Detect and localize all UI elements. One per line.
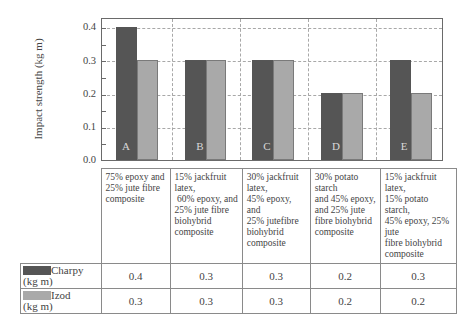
minor-tick xyxy=(102,45,106,46)
bar-a-izod xyxy=(137,60,158,160)
bar-label-b: B xyxy=(190,140,210,152)
desc-line: 45% epoxy, 25% jute xyxy=(385,216,452,238)
major-tick xyxy=(102,28,106,29)
izod-value-e: 0.2 xyxy=(380,289,456,314)
charpy-swatch-icon xyxy=(23,266,51,275)
charpy-unit: (kg m) xyxy=(23,275,53,287)
major-tick xyxy=(102,95,106,96)
izod-value-d: 0.2 xyxy=(310,289,380,314)
izod-swatch-icon xyxy=(23,291,51,300)
desc-e: 15% jackfruit latex, 15% potato starch, … xyxy=(380,169,456,264)
izod-value-c: 0.3 xyxy=(242,289,310,314)
table-description-row: 75% epoxy and 25% jute fibre composite 1… xyxy=(21,169,457,264)
desc-line: 75% epoxy and xyxy=(106,172,166,183)
gridline-0.4 xyxy=(102,28,442,29)
data-table: 75% epoxy and 25% jute fibre composite 1… xyxy=(20,168,457,314)
desc-line: fibre biohybrid xyxy=(385,238,452,249)
izod-label: Izod xyxy=(51,289,71,301)
desc-line: composite xyxy=(175,227,238,238)
desc-line: 25% jute fibre xyxy=(175,205,238,216)
plot-area: A B C D E xyxy=(101,18,443,161)
desc-a: 75% epoxy and 25% jute fibre composite xyxy=(101,169,170,264)
y-tick-3: 0.3 xyxy=(70,55,96,66)
major-tick xyxy=(102,128,106,129)
bar-label-c: C xyxy=(257,140,277,152)
desc-line: biohybrid xyxy=(175,216,238,227)
series-label-izod: Izod (kg m) xyxy=(21,289,102,314)
izod-value-a: 0.3 xyxy=(101,289,170,314)
bar-label-d: D xyxy=(326,140,346,152)
major-tick xyxy=(102,61,106,62)
charpy-value-b: 0.3 xyxy=(170,264,242,289)
y-tick-4: 0.4 xyxy=(70,21,96,32)
desc-line: 30% potato starch xyxy=(315,172,376,194)
desc-line: 15% jackfruit latex, xyxy=(385,172,452,194)
table-row-charpy: Charpy (kg m) 0.4 0.3 0.3 0.2 0.3 xyxy=(21,264,457,289)
izod-unit: (kg m) xyxy=(23,300,53,312)
y-axis-label: Impact strength (kg m) xyxy=(32,38,44,139)
desc-line: 15% potato starch, xyxy=(385,194,452,216)
desc-line: and 25% jute xyxy=(315,205,376,216)
desc-line: composite xyxy=(247,238,306,249)
minor-tick xyxy=(102,78,106,79)
y-tick-2: 0.2 xyxy=(70,88,96,99)
desc-c: 30% jackfruit latex, 45% epoxy, and 25% … xyxy=(242,169,310,264)
charpy-label: Charpy xyxy=(51,264,83,276)
desc-line: and 45% epoxy, xyxy=(315,194,376,205)
desc-d: 30% potato starch and 45% epoxy, and 25%… xyxy=(310,169,380,264)
desc-b: 15% jackfruit latex, 60% epoxy, and 25% … xyxy=(170,169,242,264)
y-tick-0: 0.0 xyxy=(70,154,96,165)
minor-tick xyxy=(102,144,106,145)
desc-line: 15% jackfruit latex, xyxy=(175,172,238,194)
izod-value-b: 0.3 xyxy=(170,289,242,314)
gridline-v1 xyxy=(172,19,173,160)
table-corner xyxy=(21,169,102,264)
y-tick-1: 0.1 xyxy=(70,121,96,132)
bar-label-a: A xyxy=(116,140,136,152)
desc-line: fibre biohybrid xyxy=(315,216,376,227)
charpy-value-c: 0.3 xyxy=(242,264,310,289)
charpy-value-a: 0.4 xyxy=(101,264,170,289)
minor-tick xyxy=(102,111,106,112)
desc-line: 60% epoxy, and xyxy=(175,194,238,205)
series-label-charpy: Charpy (kg m) xyxy=(21,264,102,289)
desc-line: 25% jutefibre xyxy=(247,216,306,227)
desc-line: composite xyxy=(385,249,452,260)
charpy-value-e: 0.3 xyxy=(380,264,456,289)
desc-line: composite xyxy=(106,194,166,205)
bar-e-izod xyxy=(411,93,432,160)
desc-line: composite xyxy=(315,227,376,238)
charpy-value-d: 0.2 xyxy=(310,264,380,289)
desc-line: 45% epoxy, and xyxy=(247,194,306,216)
desc-line: 30% jackfruit latex, xyxy=(247,172,306,194)
gridline-v3 xyxy=(308,19,309,160)
desc-line: 25% jute fibre xyxy=(106,183,166,194)
desc-line: biohybrid xyxy=(247,227,306,238)
gridline-v4 xyxy=(376,19,377,160)
gridline-v2 xyxy=(240,19,241,160)
table-row-izod: Izod (kg m) 0.3 0.3 0.3 0.2 0.2 xyxy=(21,289,457,314)
bar-label-e: E xyxy=(394,140,414,152)
